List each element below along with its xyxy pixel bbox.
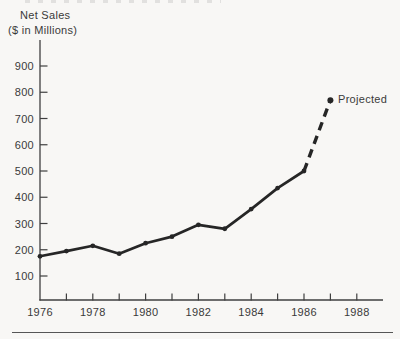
y-tick-label: 700 (15, 113, 34, 125)
y-tick-label: 500 (15, 165, 34, 177)
data-point-marker (143, 241, 148, 246)
series-actual-line (40, 171, 304, 256)
data-point-marker (90, 243, 95, 248)
x-tick-label: 1988 (344, 306, 370, 318)
data-point-marker (222, 226, 227, 231)
data-point-marker (64, 249, 69, 254)
x-tick-label: 1986 (291, 306, 317, 318)
data-point-marker (327, 97, 333, 103)
y-tick-label: 800 (15, 86, 34, 98)
data-point-marker (196, 222, 201, 227)
data-point-marker (249, 207, 254, 212)
data-point-marker (170, 234, 175, 239)
x-tick-label: 1982 (186, 306, 212, 318)
data-point-marker (38, 254, 43, 259)
y-tick-label: 400 (15, 191, 34, 203)
chart-page: Net Sales ($ in Millions) 10020030040050… (0, 0, 400, 339)
x-tick-label: 1978 (80, 306, 106, 318)
series-projected-line (304, 100, 330, 171)
y-tick-label: 200 (15, 244, 34, 256)
data-point-marker (117, 251, 122, 256)
x-tick-label: 1980 (133, 306, 159, 318)
data-point-marker (275, 186, 280, 191)
y-tick-label: 300 (15, 218, 34, 230)
net-sales-line-chart: 1002003004005006007008009001976197819801… (0, 0, 400, 339)
projected-annotation: Projected (338, 93, 387, 105)
y-tick-label: 100 (15, 270, 34, 282)
y-tick-label: 900 (15, 60, 34, 72)
page-divider (12, 332, 393, 333)
y-tick-label: 600 (15, 139, 34, 151)
x-tick-label: 1976 (27, 306, 53, 318)
x-tick-label: 1984 (238, 306, 264, 318)
